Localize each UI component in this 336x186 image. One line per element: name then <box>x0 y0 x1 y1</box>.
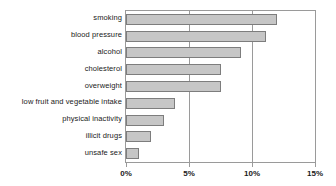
bar <box>126 115 164 126</box>
bar-series <box>126 11 315 162</box>
bar <box>126 131 151 142</box>
bar <box>126 148 139 159</box>
bar-row <box>126 112 315 129</box>
axis-tick <box>252 163 253 167</box>
category-label: smoking <box>0 13 122 22</box>
bar <box>126 47 241 58</box>
bar-row <box>126 28 315 45</box>
axis-tick <box>126 163 127 167</box>
axis-tick <box>315 163 316 167</box>
axis-tick-label: 0% <box>120 169 132 179</box>
bar-row <box>126 128 315 145</box>
bar-row <box>126 95 315 112</box>
bar-row <box>126 61 315 78</box>
axis-tick <box>189 163 190 167</box>
plot-area <box>125 10 316 163</box>
axis-tick-label: 15% <box>307 169 323 179</box>
category-label: alcohol <box>0 47 122 56</box>
bar <box>126 14 277 25</box>
category-label: low fruit and vegetable intake <box>0 97 122 106</box>
category-label: unsafe sex <box>0 148 122 157</box>
category-label: blood pressure <box>0 30 122 39</box>
axis-tick-label: 10% <box>244 169 260 179</box>
bar <box>126 31 266 42</box>
bar <box>126 64 221 75</box>
axis-tick-label: 5% <box>183 169 195 179</box>
category-label: physical inactivity <box>0 114 122 123</box>
category-label: illicit drugs <box>0 131 122 140</box>
bar-row <box>126 78 315 95</box>
value-axis: 0%5%10%15% <box>0 163 336 186</box>
bar-row <box>126 44 315 61</box>
bar-row <box>126 145 315 162</box>
bar <box>126 98 175 109</box>
category-axis-labels: smokingblood pressurealcoholcholesterolo… <box>0 10 122 163</box>
category-label: overweight <box>0 81 122 90</box>
category-label: cholesterol <box>0 64 122 73</box>
bar-row <box>126 11 315 28</box>
bar <box>126 81 221 92</box>
bar-chart: smokingblood pressurealcoholcholesterolo… <box>0 0 336 186</box>
